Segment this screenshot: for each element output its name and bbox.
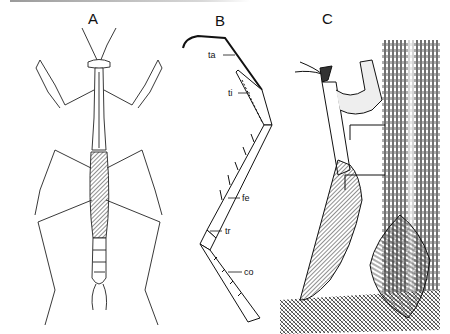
illustration: ta ti fe tr co bbox=[0, 0, 450, 334]
foreleg-left bbox=[36, 60, 94, 108]
label-fe: fe bbox=[242, 193, 250, 203]
label-ti: ti bbox=[228, 88, 233, 98]
cercus-right bbox=[103, 284, 107, 310]
wings bbox=[90, 152, 109, 238]
label-tr: tr bbox=[225, 226, 231, 236]
antenna-left bbox=[82, 28, 98, 62]
midleg-left bbox=[35, 150, 91, 215]
abdomen bbox=[92, 238, 106, 284]
midleg bbox=[350, 125, 385, 140]
hindleg-right bbox=[106, 200, 160, 325]
antenna bbox=[300, 62, 322, 74]
label-co: co bbox=[244, 267, 254, 277]
label-ta: ta bbox=[208, 50, 216, 60]
coxa bbox=[200, 244, 260, 322]
mantis-dorsal-view bbox=[35, 28, 162, 325]
midleg-right bbox=[107, 150, 162, 215]
mantis-head bbox=[320, 66, 332, 82]
foreleg-right bbox=[104, 60, 162, 108]
raptorial-leg bbox=[336, 60, 382, 114]
antenna-right bbox=[100, 28, 116, 62]
hindleg-left bbox=[38, 200, 92, 325]
mantis-on-bark-scene bbox=[280, 40, 440, 334]
cercus-left bbox=[92, 284, 96, 310]
foreleg-diagram bbox=[183, 36, 272, 322]
head bbox=[88, 60, 110, 69]
femur bbox=[207, 125, 272, 238]
wings-and-abdomen bbox=[300, 160, 362, 300]
